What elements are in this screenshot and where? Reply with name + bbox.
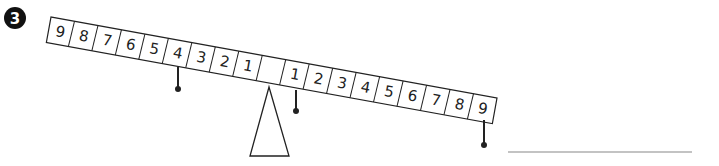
weight-left-4 — [175, 67, 181, 92]
question-number-badge: 3 — [4, 7, 26, 29]
seesaw-diagram: 3 987654321123456789 — [0, 0, 719, 166]
weight-right-1 — [293, 90, 299, 114]
weight-right-9 — [481, 120, 487, 148]
question-number: 3 — [10, 10, 20, 28]
fulcrum-triangle — [250, 87, 289, 156]
